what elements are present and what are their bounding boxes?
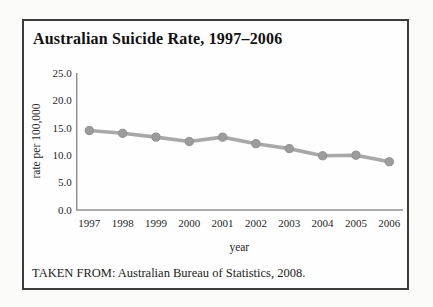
y-tick-label: 20.0	[52, 94, 72, 106]
data-point-2006	[385, 158, 393, 166]
data-point-1999	[152, 133, 160, 141]
data-point-2005	[352, 151, 360, 159]
y-tick-label: 15.0	[52, 122, 72, 134]
scanned-figure-page: Australian Suicide Rate, 1997–2006 0.05.…	[0, 0, 433, 307]
y-axis-title: rate per 100,000	[30, 103, 43, 178]
y-tick-label: 0.0	[58, 204, 72, 216]
data-point-2003	[285, 145, 293, 153]
data-point-2001	[219, 133, 227, 141]
x-tick-label: 2004	[312, 217, 335, 229]
x-tick-label: 2000	[178, 217, 201, 229]
data-point-2002	[252, 140, 260, 148]
data-point-1998	[119, 129, 127, 137]
x-tick-label: 2006	[378, 217, 401, 229]
y-tick-label: 10.0	[52, 149, 72, 161]
x-tick-label: 1998	[112, 217, 135, 229]
figure-caption: TAKEN FROM: Australian Bureau of Statist…	[32, 266, 305, 281]
suicide-rate-line-chart: 0.05.010.015.020.025.0199719981999200020…	[24, 21, 407, 288]
data-line	[89, 131, 389, 162]
x-tick-label: 2005	[345, 217, 368, 229]
data-point-2004	[319, 152, 327, 160]
x-tick-label: 2003	[278, 217, 301, 229]
x-tick-label: 2002	[245, 217, 267, 229]
x-tick-label: 1999	[145, 217, 168, 229]
y-tick-label: 25.0	[52, 67, 72, 79]
figure-box: Australian Suicide Rate, 1997–2006 0.05.…	[22, 19, 409, 290]
x-tick-label: 1997	[78, 217, 101, 229]
data-point-1997	[85, 126, 93, 134]
data-point-2000	[185, 137, 193, 145]
x-axis-title: year	[229, 241, 249, 254]
x-tick-label: 2001	[212, 217, 234, 229]
y-tick-label: 5.0	[58, 176, 72, 188]
